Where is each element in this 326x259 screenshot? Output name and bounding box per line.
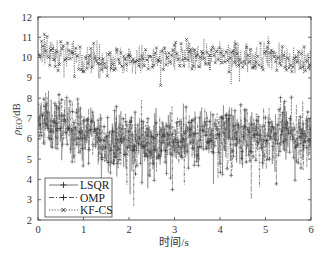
svg-text:ρEO/dB: ρEO/dB xyxy=(10,103,24,136)
y-tick-label: 2 xyxy=(27,215,32,226)
y-tick-label: 8 xyxy=(27,93,32,104)
y-tick-label: 6 xyxy=(27,133,32,144)
y-tick-label: 12 xyxy=(22,12,33,23)
x-tick-label: 2 xyxy=(126,224,131,235)
y-axis-title: ρEO/dB xyxy=(10,103,24,136)
x-tick-label: 6 xyxy=(308,224,313,235)
x-tick-label: 3 xyxy=(172,224,177,235)
y-tick-label: 9 xyxy=(27,72,32,83)
legend: LSQR OMP KF-CS xyxy=(45,178,113,217)
svg-text:KF-CS: KF-CS xyxy=(80,204,113,216)
chart: 0123456 23456789101112 时间/s ρEO/dB LSQR … xyxy=(0,0,326,259)
x-tick-label: 0 xyxy=(35,224,40,235)
x-tick-label: 5 xyxy=(263,224,268,235)
svg-text:OMP: OMP xyxy=(80,192,105,204)
y-tick-label: 7 xyxy=(27,113,32,124)
x-axis-title: 时间/s xyxy=(159,236,188,248)
y-axis-title-unit: /dB xyxy=(10,103,22,119)
y-tick-label: 3 xyxy=(27,194,32,205)
x-tick-label: 1 xyxy=(81,224,86,235)
x-tick-label: 4 xyxy=(217,224,223,235)
y-tick-label: 5 xyxy=(27,154,32,165)
y-tick-label: 10 xyxy=(22,52,33,63)
y-tick-label: 4 xyxy=(27,174,33,185)
svg-text:LSQR: LSQR xyxy=(80,179,110,191)
series-kf-cs xyxy=(37,33,312,87)
y-tick-label: 11 xyxy=(22,32,32,43)
y-axis-title-subscript: EO xyxy=(15,119,24,130)
